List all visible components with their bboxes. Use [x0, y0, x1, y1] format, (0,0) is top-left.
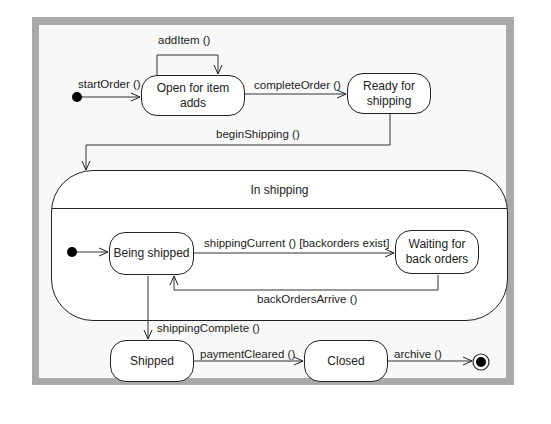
state-label: Shipped [130, 354, 174, 369]
state-label: Open for item adds [142, 81, 244, 111]
state-label-line1: Ready for [363, 79, 415, 93]
state-label-line2: back orders [406, 252, 469, 266]
state-label: Ready forshipping [363, 79, 415, 109]
inner-initial-state-icon [67, 247, 77, 257]
state-shipped: Shipped [110, 340, 194, 382]
label-shipping-complete: shippingComplete () [157, 322, 260, 334]
label-start-order: startOrder () [78, 78, 141, 90]
state-label-line1: Waiting for [409, 237, 466, 251]
transition-lines [0, 0, 551, 424]
state-closed: Closed [304, 340, 388, 382]
state-waiting-for-back-orders: Waiting forback orders [395, 230, 479, 274]
state-open-for-item-adds: Open for item adds [141, 75, 245, 116]
label-add-item: addItem () [158, 34, 210, 46]
state-label-line2: shipping [367, 94, 412, 108]
label-archive: archive () [394, 348, 442, 360]
state-label: Being shipped [113, 246, 189, 261]
label-shipping-current: shippingCurrent () [backorders exist] [204, 237, 389, 249]
state-label: Closed [327, 354, 364, 369]
state-ready-for-shipping: Ready forshipping [347, 73, 431, 114]
state-label: Waiting forback orders [406, 237, 469, 267]
label-payment-cleared: paymentCleared () [200, 348, 295, 360]
label-begin-shipping: beginShipping () [216, 128, 300, 140]
initial-state-icon [72, 92, 82, 102]
state-being-shipped: Being shipped [109, 232, 194, 275]
label-complete-order: completeOrder () [254, 79, 341, 91]
label-back-orders-arrive: backOrdersArrive () [257, 293, 357, 305]
